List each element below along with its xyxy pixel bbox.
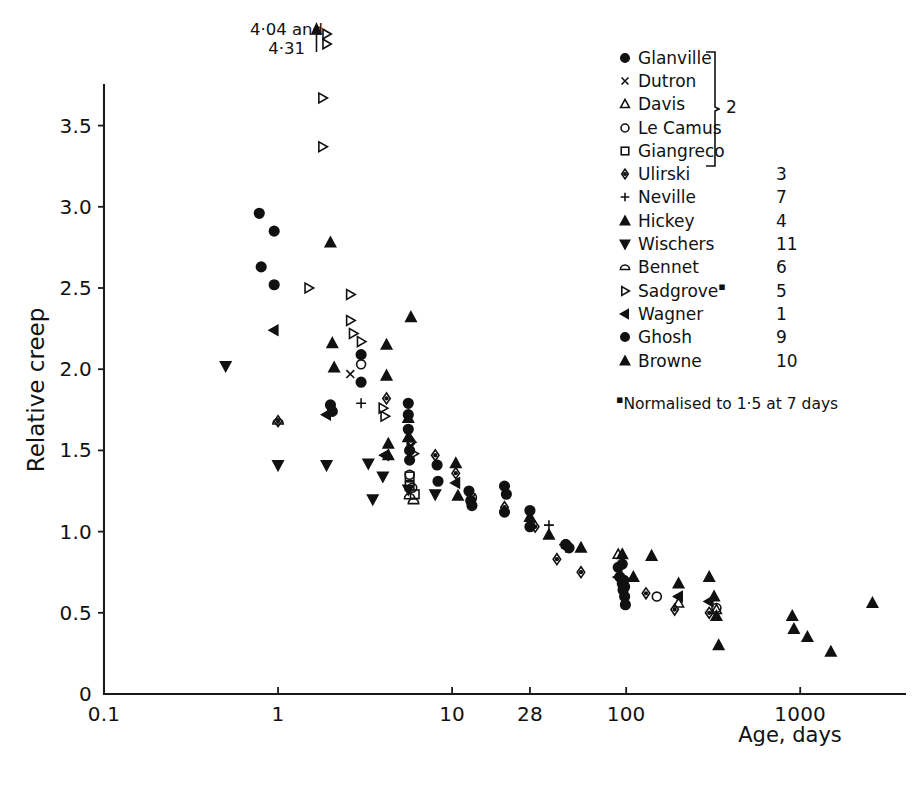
legend-item-ghosh[interactable]: Ghosh9 [612, 326, 912, 349]
legend-footnote-marker-icon: ▪ [718, 280, 725, 293]
marker-filled-triangle-up [453, 490, 463, 500]
marker-open-triangle-right [357, 337, 366, 347]
legend-item-hickey[interactable]: Hickey4 [612, 209, 912, 232]
legend-item-davis[interactable]: Davis2 [612, 93, 912, 116]
marker-filled-triangle-up [576, 542, 586, 552]
y-axis-title: Relative creep [23, 308, 49, 473]
marker-filled-circle [561, 540, 571, 550]
marker-open-triangle-right [319, 142, 328, 152]
legend-item-wischers[interactable]: Wischers11 [612, 232, 912, 255]
y-tick-label: 1.5 [60, 438, 92, 462]
legend-group-brace [704, 50, 720, 168]
legend-item-browne[interactable]: Browne10 [612, 349, 912, 372]
marker-filled-triangle-left [451, 478, 460, 488]
legend-footnote: ▪Normalised to 1·5 at 7 days [616, 393, 838, 413]
marker-open-circle [652, 592, 661, 601]
marker-filled-triangle-left [269, 325, 278, 335]
marker-filled-triangle-up [620, 216, 629, 225]
marker-filled-triangle-up [789, 624, 799, 634]
marker-filled-triangle-up [381, 370, 391, 380]
x-tick-label: 28 [517, 702, 543, 726]
marker-filled-triangle-up [325, 237, 335, 247]
marker-filled-triangle-down [620, 240, 629, 249]
legend-item-label: Neville [638, 187, 750, 207]
marker-filled-triangle-left [621, 310, 629, 319]
marker-filled-circle [621, 600, 631, 610]
legend-item-ref: 7 [750, 187, 810, 207]
marker-dotted-diamond [642, 588, 649, 599]
series-neville [356, 398, 571, 552]
legend-marker-filled-circle-icon [612, 328, 638, 346]
series-ulirski [274, 393, 713, 618]
legend-item-neville[interactable]: Neville7 [612, 186, 912, 209]
marker-half-circle [620, 265, 629, 270]
marker-filled-circle [269, 280, 279, 290]
marker-filled-triangle-up [383, 438, 393, 448]
marker-filled-triangle-up [867, 598, 877, 608]
legend-item-ulirski[interactable]: Ulirski3 [612, 162, 912, 185]
marker-open-circle [357, 360, 366, 369]
legend-item-ref: 5 [750, 281, 810, 301]
legend-item-le-camus[interactable]: Le Camus2 [612, 116, 912, 139]
legend-item-bennet[interactable]: Bennet6 [612, 256, 912, 279]
legend-item-label: Hickey [638, 211, 750, 231]
marker-filled-triangle-up [628, 572, 638, 582]
marker-dotted-diamond [431, 450, 438, 461]
marker-open-triangle-right [323, 39, 331, 49]
legend-marker-filled-circle-icon [612, 49, 638, 67]
series-bennet [273, 419, 419, 504]
y-tick-label: 3.0 [60, 195, 92, 219]
marker-filled-triangle-up [406, 312, 416, 322]
marker-dotted-diamond [553, 554, 560, 565]
legend-marker-cross-icon [612, 72, 638, 90]
marker-cross [622, 77, 629, 84]
legend-item-label: Wagner [638, 304, 750, 324]
y-tick-label: 2.5 [60, 276, 92, 300]
legend-marker-open-triangle-right-icon [612, 282, 638, 300]
marker-dotted-diamond [622, 169, 629, 179]
marker-filled-circle [433, 476, 443, 486]
marker-filled-triangle-down [273, 461, 283, 471]
marker-filled-circle [620, 582, 630, 592]
y-tick-label: 0.5 [60, 601, 92, 625]
marker-open-triangle-right [347, 316, 356, 326]
legend-item-ref: 9 [750, 327, 810, 347]
marker-plus [621, 193, 630, 202]
legend-item-giangreco[interactable]: Giangreco2 [612, 139, 912, 162]
marker-filled-triangle-down [368, 495, 378, 505]
marker-filled-triangle-up [673, 578, 683, 588]
legend-item-label: Sadgrove▪ [638, 280, 750, 301]
legend-marker-filled-triangle-up-icon [612, 212, 638, 230]
marker-open-triangle-right [347, 290, 356, 300]
x-tick-label: 10 [439, 702, 465, 726]
legend-item-ref: 10 [750, 351, 810, 371]
legend-item-glanville[interactable]: Glanville2 [612, 46, 912, 69]
marker-filled-triangle-up [646, 551, 656, 561]
marker-filled-triangle-up [327, 338, 337, 348]
legend-item-sadgrove[interactable]: Sadgrove▪5 [612, 279, 912, 302]
marker-filled-triangle-down [430, 490, 440, 500]
marker-filled-triangle-up [826, 646, 836, 656]
marker-filled-circle [403, 399, 413, 409]
legend-item-wagner[interactable]: Wagner1 [612, 302, 912, 325]
legend-item-label: Ulirski [638, 164, 750, 184]
legend-item-label: Ghosh [638, 327, 750, 347]
legend-marker-filled-triangle-down-icon [612, 235, 638, 253]
series-ghosh [500, 481, 630, 591]
x-tick-label: 1 [272, 702, 285, 726]
marker-filled-triangle-left [322, 410, 331, 420]
marker-filled-triangle-up [620, 356, 629, 365]
y-tick-label: 3.5 [60, 114, 92, 138]
legend-marker-filled-triangle-left-icon [612, 305, 638, 323]
marker-filled-triangle-up [713, 640, 723, 650]
legend-marker-half-circle-icon [612, 258, 638, 276]
legend-item-label: Bennet [638, 257, 750, 277]
marker-filled-triangle-down [220, 362, 230, 372]
legend-item-dutron[interactable]: Dutron2 [612, 69, 912, 92]
marker-filled-circle [356, 377, 366, 387]
annotation-line-1: 4·04 and [250, 20, 323, 39]
marker-dotted-diamond [274, 416, 281, 427]
marker-plus [356, 398, 366, 408]
legend-item-ref: 3 [750, 164, 810, 184]
marker-filled-circle [502, 489, 512, 499]
